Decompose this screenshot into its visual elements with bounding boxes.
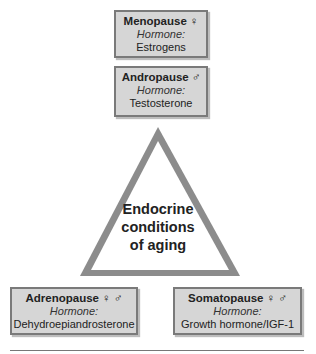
male-icon: ♂ [192,71,201,83]
hormone-value: Growth hormone/IGF-1 [175,318,300,331]
andropause-box: Andropause♂ Hormone: Testosterone [114,66,208,117]
box-title: Adrenopause [26,292,100,304]
female-male-icon: ♀ ♂ [266,292,286,304]
hormone-value: Dehydroepiandrosterone [12,318,136,331]
female-icon: ♀ [190,15,199,27]
center-label-line: Endocrine [100,200,216,218]
hormone-value: Testosterone [116,97,206,110]
hormone-label: Hormone: [116,84,206,97]
box-title: Somatopause [188,292,263,304]
adrenopause-box: Adrenopause♀ ♂ Hormone: Dehydroepiandros… [10,287,138,335]
center-label-line: conditions [100,218,216,236]
menopause-box: Menopause♀ Hormone: Estrogens [114,10,208,58]
center-label-line: of aging [100,236,216,254]
somatopause-box: Somatopause♀ ♂ Hormone: Growth hormone/I… [173,287,302,335]
hormone-label: Hormone: [175,305,300,318]
female-male-icon: ♀ ♂ [102,292,122,304]
box-title: Menopause [124,15,187,27]
bottom-divider [10,350,304,351]
hormone-value: Estrogens [116,41,206,54]
hormone-label: Hormone: [116,28,206,41]
box-title: Andropause [122,71,189,83]
hormone-label: Hormone: [12,305,136,318]
center-label: Endocrine conditions of aging [100,200,216,254]
